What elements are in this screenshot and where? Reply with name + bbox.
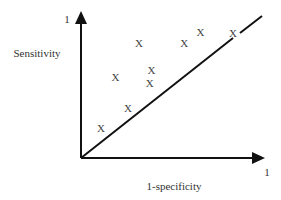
data-point-marker: X — [148, 64, 156, 76]
data-point-marker: X — [180, 37, 188, 49]
diagonal-reference-line — [81, 38, 233, 158]
data-point-marker: X — [135, 37, 143, 49]
x-axis-title: 1-specificity — [147, 180, 202, 192]
data-point-marker: X — [97, 122, 105, 134]
diagonal-reference-line-end — [240, 16, 262, 33]
data-point-marker: X — [146, 77, 154, 89]
data-point-markers: XXXXXXXXX — [97, 26, 237, 135]
roc-space-diagram: 1 1 Sensitivity 1-specificity XXXXXXXXX — [0, 0, 281, 200]
x-axis-arrow-icon — [252, 152, 265, 164]
y-axis-title: Sensitivity — [13, 47, 61, 59]
roc-plot-canvas: 1 1 Sensitivity 1-specificity XXXXXXXXX — [0, 0, 281, 200]
y-axis-end-label: 1 — [64, 13, 70, 25]
data-point-marker: X — [229, 27, 237, 39]
y-axis-arrow-icon — [75, 11, 87, 24]
data-point-marker: X — [197, 26, 205, 38]
x-axis-end-label: 1 — [264, 166, 270, 178]
data-point-marker: X — [111, 71, 119, 83]
data-point-marker: X — [124, 102, 132, 114]
